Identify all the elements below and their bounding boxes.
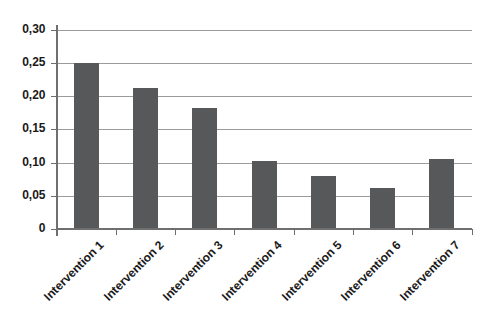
y-axis-label: 0,15 (4, 121, 46, 135)
x-axis-label: Intervention 1 (42, 238, 108, 304)
bar (133, 88, 158, 229)
x-axis-label: Intervention 7 (397, 238, 463, 304)
gridline (57, 129, 472, 130)
x-axis-label: Intervention 6 (338, 238, 404, 304)
bar-chart: 00,050,100,150,200,250,30 Intervention 1… (0, 0, 497, 309)
x-axis-label: Intervention 5 (279, 238, 345, 304)
bar (311, 176, 336, 229)
x-axis-label: Intervention 4 (219, 238, 285, 304)
x-axis-label: Intervention 2 (101, 238, 167, 304)
gridline (57, 96, 472, 97)
bar (252, 161, 277, 229)
gridline (57, 30, 472, 31)
y-axis-label: 0,25 (4, 55, 46, 69)
x-axis-label: Intervention 3 (160, 238, 226, 304)
bar (429, 159, 454, 229)
bar (74, 63, 99, 229)
y-axis-label: 0 (4, 221, 46, 235)
x-axis-line (57, 228, 472, 230)
bar (370, 188, 395, 229)
y-axis-label: 0,05 (4, 188, 46, 202)
x-tick (472, 229, 473, 235)
y-axis-label: 0,10 (4, 155, 46, 169)
y-axis-label: 0,20 (4, 88, 46, 102)
y-axis-line (56, 25, 58, 237)
gridline (57, 63, 472, 64)
bar (192, 108, 217, 229)
y-axis-label: 0,30 (4, 22, 46, 36)
